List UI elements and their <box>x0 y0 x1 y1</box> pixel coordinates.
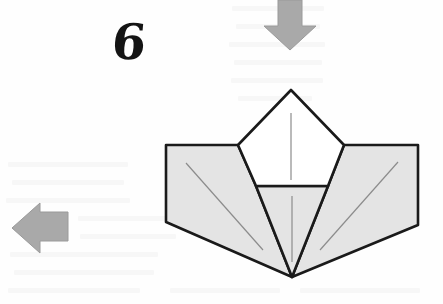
folded-paper-model <box>166 90 418 277</box>
origami-figure <box>0 0 443 304</box>
fold-left-arrow <box>12 203 68 253</box>
fold-down-arrow <box>264 0 316 50</box>
origami-diagram-page: 6 <box>0 0 443 304</box>
